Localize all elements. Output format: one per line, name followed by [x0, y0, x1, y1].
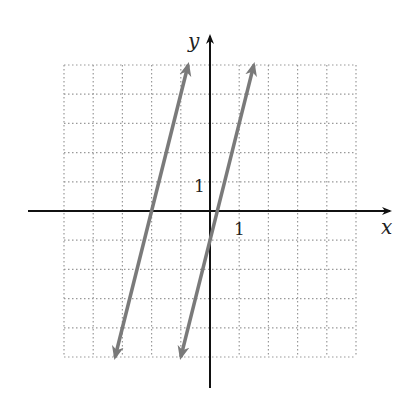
y-tick-label: 1: [194, 176, 205, 196]
x-tick-label: 1: [234, 219, 245, 239]
coordinate-plane: y x 1 1: [0, 0, 413, 403]
x-axis-label: x: [381, 215, 392, 239]
axes: [28, 36, 390, 388]
y-axis-label: y: [187, 29, 200, 53]
